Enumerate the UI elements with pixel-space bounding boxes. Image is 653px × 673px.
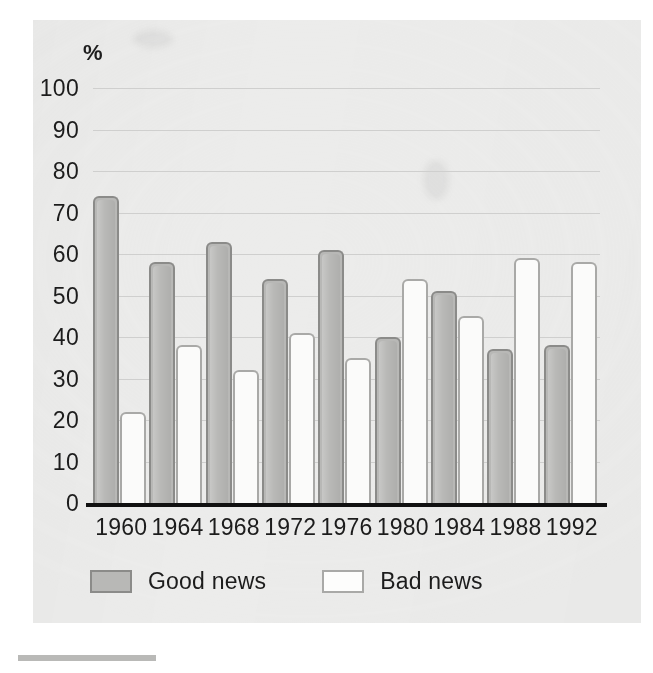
- x-axis-ticks: 196019641968197219761980198419881992: [93, 514, 600, 548]
- legend-swatch-good: [90, 570, 132, 593]
- bar-group-1964: [149, 88, 205, 503]
- plot-area: [93, 88, 600, 503]
- bar-group-1992: [544, 88, 600, 503]
- x-axis-line: [86, 503, 607, 507]
- legend-swatch-bad: [322, 570, 364, 593]
- bar-1992-good-news[interactable]: [544, 345, 570, 503]
- bar-group-1972: [262, 88, 318, 503]
- bar-group-1976: [318, 88, 374, 503]
- y-tick-label-30: 30: [23, 367, 79, 390]
- y-axis-ticks: 1009080706050403020100: [17, 88, 79, 503]
- bar-1960-bad-news[interactable]: [120, 412, 146, 503]
- bar-1980-bad-news[interactable]: [402, 279, 428, 503]
- bar-group-1960: [93, 88, 149, 503]
- y-tick-label-80: 80: [23, 160, 79, 183]
- bar-1960-good-news[interactable]: [93, 196, 119, 503]
- bar-1976-bad-news[interactable]: [345, 358, 371, 503]
- bar-1976-good-news[interactable]: [318, 250, 344, 503]
- y-tick-label-70: 70: [23, 201, 79, 224]
- y-tick-label-0: 0: [23, 492, 79, 515]
- bar-1968-bad-news[interactable]: [233, 370, 259, 503]
- y-tick-label-50: 50: [23, 284, 79, 307]
- bar-group-1980: [375, 88, 431, 503]
- bar-1968-good-news[interactable]: [206, 242, 232, 503]
- bar-1964-bad-news[interactable]: [176, 345, 202, 503]
- legend-item-bad-news[interactable]: Bad news: [322, 568, 483, 595]
- y-tick-label-10: 10: [23, 450, 79, 473]
- legend-label: Bad news: [380, 568, 483, 595]
- y-tick-label-100: 100: [23, 77, 79, 100]
- bar-1980-good-news[interactable]: [375, 337, 401, 503]
- bar-1964-good-news[interactable]: [149, 262, 175, 503]
- chart-legend: Good newsBad news: [90, 568, 483, 595]
- legend-item-good-news[interactable]: Good news: [90, 568, 266, 595]
- bar-1972-bad-news[interactable]: [289, 333, 315, 503]
- x-tick-label-1992: 1992: [536, 514, 608, 541]
- legend-label: Good news: [148, 568, 266, 595]
- y-axis-unit-label: %: [83, 40, 103, 66]
- scan-artifact: [18, 655, 156, 661]
- bar-1984-bad-news[interactable]: [458, 316, 484, 503]
- bar-1988-good-news[interactable]: [487, 349, 513, 503]
- bar-1988-bad-news[interactable]: [514, 258, 540, 503]
- bar-group-1984: [431, 88, 487, 503]
- y-tick-label-60: 60: [23, 243, 79, 266]
- bar-1992-bad-news[interactable]: [571, 262, 597, 503]
- y-tick-label-20: 20: [23, 409, 79, 432]
- bar-1984-good-news[interactable]: [431, 291, 457, 503]
- bar-group-1968: [206, 88, 262, 503]
- bar-group-1988: [487, 88, 543, 503]
- y-tick-label-90: 90: [23, 118, 79, 141]
- chart-page: % 1009080706050403020100 196019641968197…: [0, 0, 653, 673]
- y-tick-label-40: 40: [23, 326, 79, 349]
- bar-1972-good-news[interactable]: [262, 279, 288, 503]
